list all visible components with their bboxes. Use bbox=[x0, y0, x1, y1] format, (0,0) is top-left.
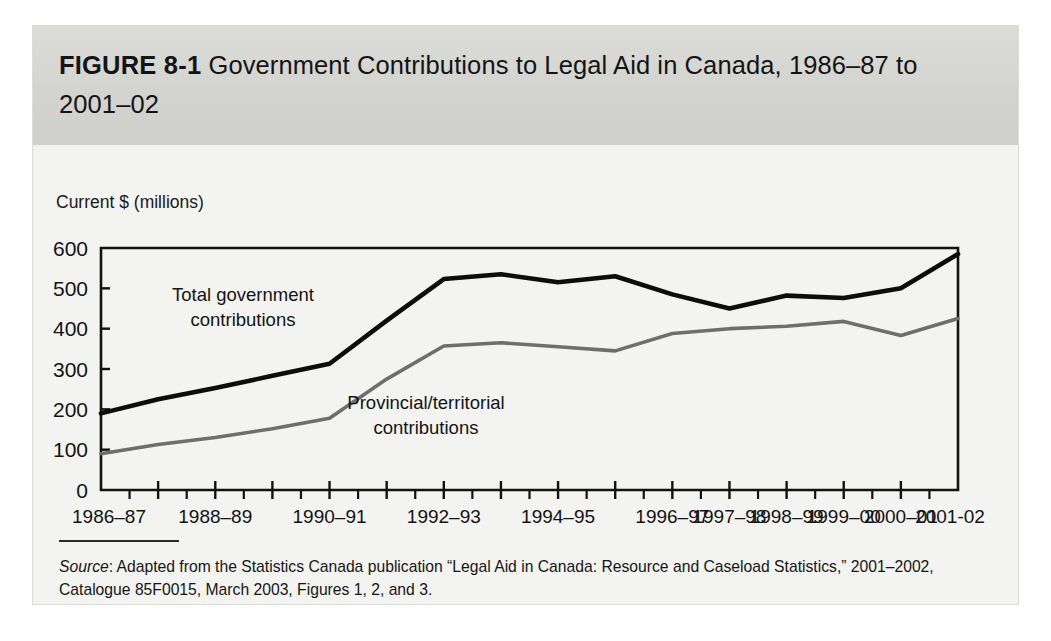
figure-body: Current $ (millions) 0100200300400500600… bbox=[33, 145, 1018, 604]
y-tick-label: 500 bbox=[53, 277, 88, 300]
chart-area: Current $ (millions) 0100200300400500600… bbox=[33, 145, 1018, 535]
y-tick-label: 100 bbox=[53, 438, 88, 461]
series-line-total-government bbox=[101, 254, 958, 413]
source-body: : Adapted from the Statistics Canada pub… bbox=[59, 558, 934, 598]
y-tick-label: 600 bbox=[53, 237, 88, 260]
x-tick-label: 1994–95 bbox=[521, 506, 595, 527]
y-tick-label: 300 bbox=[53, 358, 88, 381]
x-tick-label: 1992–93 bbox=[407, 506, 481, 527]
y-tick-label: 400 bbox=[53, 317, 88, 340]
x-tick-label: 1990–91 bbox=[293, 506, 367, 527]
series-annotation-line1: Total government bbox=[172, 284, 314, 305]
source-label: Source bbox=[59, 558, 109, 575]
x-tick-label: 1986–87 bbox=[72, 506, 146, 527]
x-tick-label: 2001-02 bbox=[915, 506, 985, 527]
source-divider bbox=[59, 540, 179, 542]
figure-card: FIGURE 8-1 Government Contributions to L… bbox=[33, 26, 1018, 604]
series-annotation-line2: contributions bbox=[191, 309, 296, 330]
source-note: Source: Adapted from the Statistics Cana… bbox=[59, 540, 989, 601]
line-chart-plot: 01002003004005006001986–871988–891990–91… bbox=[33, 145, 1018, 535]
source-text: Source: Adapted from the Statistics Cana… bbox=[59, 555, 989, 601]
figure-title: FIGURE 8-1 Government Contributions to L… bbox=[59, 46, 989, 124]
series-annotation-line1: Provincial/territorial bbox=[347, 392, 504, 413]
y-tick-label: 200 bbox=[53, 398, 88, 421]
x-tick-label: 1988–89 bbox=[178, 506, 252, 527]
series-annotation-line2: contributions bbox=[374, 417, 479, 438]
y-tick-label: 0 bbox=[76, 479, 88, 502]
figure-number: FIGURE 8-1 bbox=[59, 51, 201, 79]
figure-title-band: FIGURE 8-1 Government Contributions to L… bbox=[33, 26, 1018, 145]
